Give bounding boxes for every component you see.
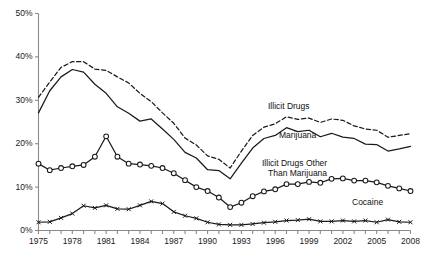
x-tick-label: 2005 xyxy=(363,236,391,246)
y-tick-label: 40% xyxy=(0,51,33,61)
series-marker-circle xyxy=(374,180,379,185)
x-tick-label: 1990 xyxy=(194,236,222,246)
x-tick-label: 1999 xyxy=(295,236,323,246)
series-marker-circle xyxy=(408,189,413,194)
x-tick-label: 1981 xyxy=(92,236,120,246)
series-marker-circle xyxy=(183,178,188,183)
series-marker-circle xyxy=(138,162,143,167)
series-marker-circle xyxy=(386,183,391,188)
y-tick-label: 50% xyxy=(0,8,33,18)
series-marker-circle xyxy=(397,186,402,191)
series-marker-circle xyxy=(104,134,109,139)
y-tick-label: 10% xyxy=(0,182,33,192)
series-marker-circle xyxy=(363,178,368,183)
other-label-line1: Illicit Drugs Other xyxy=(262,158,327,168)
other-label-line2: Than Marijuana xyxy=(268,168,327,178)
series-marker-circle xyxy=(36,161,41,166)
y-tick-label: 20% xyxy=(0,138,33,148)
series-marker-circle xyxy=(47,168,52,173)
series-marker-circle xyxy=(160,166,165,171)
x-tick-label: 1993 xyxy=(227,236,255,246)
series-marker-circle xyxy=(92,154,97,159)
x-tick-label: 2008 xyxy=(397,236,425,246)
series-marker-circle xyxy=(250,194,255,199)
y-tick-label: 0% xyxy=(0,225,33,235)
series-marker-circle xyxy=(194,185,199,190)
x-tick-label: 2002 xyxy=(329,236,357,246)
series-marker-circle xyxy=(273,187,278,192)
series-marker-circle xyxy=(318,180,323,185)
series-marker-circle xyxy=(307,179,312,184)
series-marker-circle xyxy=(115,154,120,159)
y-tick-label: 30% xyxy=(0,95,33,105)
series-marker-circle xyxy=(295,182,300,187)
series-marker-circle xyxy=(81,163,86,168)
series-marker-circle xyxy=(126,161,131,166)
series-marker-circle xyxy=(205,189,210,194)
series-line-illicit-drugs xyxy=(39,62,411,168)
series-marker-circle xyxy=(59,166,64,171)
series-marker-circle xyxy=(70,164,75,169)
x-tick-label: 1978 xyxy=(58,236,86,246)
series-marker-circle xyxy=(352,178,357,183)
cocaine-label: Cocaine xyxy=(352,197,383,207)
series-marker-circle xyxy=(284,182,289,187)
series-line-marijuana xyxy=(39,69,411,178)
series-marker-circle xyxy=(329,176,334,181)
marijuana-label: Marijuana xyxy=(279,130,316,140)
series-marker-circle xyxy=(262,189,267,194)
x-tick-label: 1996 xyxy=(261,236,289,246)
illicit-drugs-label: Illicit Drugs xyxy=(268,101,310,111)
series-marker-circle xyxy=(228,205,233,210)
series-marker-circle xyxy=(149,163,154,168)
x-tick-label: 1987 xyxy=(160,236,188,246)
series-marker-circle xyxy=(171,171,176,176)
series-marker-circle xyxy=(239,200,244,205)
x-tick-label: 1975 xyxy=(25,236,53,246)
x-tick-label: 1984 xyxy=(126,236,154,246)
series-marker-circle xyxy=(340,176,345,181)
series-marker-circle xyxy=(216,195,221,200)
